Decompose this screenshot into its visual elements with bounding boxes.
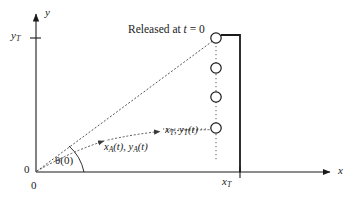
y-axis-label: y <box>45 7 50 18</box>
target-marker-t3 <box>211 123 221 133</box>
target-marker-t1 <box>211 63 221 73</box>
target-marker-t2 <box>211 92 221 102</box>
released-eq: = 0 <box>187 23 205 35</box>
y-axis-tick-label: yT <box>11 30 20 43</box>
support-structure <box>221 35 240 172</box>
yT-sub: T <box>16 34 20 43</box>
launch-angle-label: θ(0) <box>55 155 73 166</box>
released-text: Released at <box>128 23 184 35</box>
x-axis-tick-label: xT <box>222 176 231 189</box>
x-axis-label: x <box>338 165 343 176</box>
target-marker-t0 <box>211 33 221 43</box>
origin-label-x: 0 <box>31 180 37 191</box>
released-annotation: Released at t = 0 <box>128 24 205 36</box>
yT-label-arg: (t) <box>188 124 198 135</box>
yA-arg: (t) <box>138 141 148 152</box>
target-label: xT, yT(t) <box>165 125 198 136</box>
axis-group <box>30 14 330 178</box>
projectile-label: xA(t), yA(t) <box>104 142 148 153</box>
xA-arg: (t), <box>113 141 128 152</box>
origin-label-y: 0 <box>24 164 30 175</box>
projectile-trajectory-2 <box>108 132 160 141</box>
xT-sub: T <box>227 180 231 189</box>
